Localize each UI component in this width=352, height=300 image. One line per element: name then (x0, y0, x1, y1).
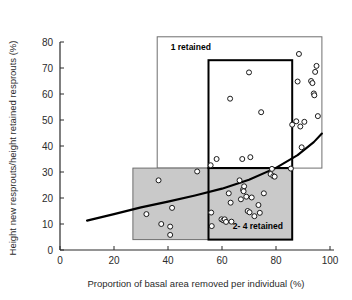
data-point (170, 205, 175, 210)
y-tick-label-10: 10 (42, 219, 54, 230)
data-point (242, 184, 247, 189)
x-tick-label-20: 20 (108, 255, 120, 266)
figure-container: 02040608010001020304050607080 1 retained… (0, 0, 352, 300)
y-tick-label-80: 80 (42, 37, 54, 48)
data-point (237, 178, 242, 183)
data-point (296, 51, 301, 56)
y-tick-label-40: 40 (42, 141, 54, 152)
data-point (288, 166, 293, 171)
data-point (159, 222, 164, 227)
data-point (248, 155, 253, 160)
data-point (272, 174, 277, 179)
region-label-1-retained: 1 retained (171, 42, 211, 52)
data-point (295, 79, 300, 84)
x-tick-label-40: 40 (162, 255, 174, 266)
data-point (168, 224, 173, 229)
y-tick-label-20: 20 (42, 193, 54, 204)
y-axis-title: Height new resprouts/height retained res… (7, 41, 18, 256)
data-point (168, 232, 173, 237)
data-point (294, 119, 299, 124)
data-point (310, 81, 315, 86)
data-point (315, 114, 320, 119)
data-point (252, 214, 257, 219)
data-point (269, 166, 274, 171)
y-tick-label-60: 60 (42, 89, 54, 100)
data-point (257, 210, 262, 215)
data-point (249, 195, 254, 200)
data-point (226, 191, 231, 196)
data-point (195, 169, 200, 174)
data-point (156, 178, 161, 183)
data-point (238, 197, 243, 202)
data-point (241, 189, 246, 194)
data-point (313, 69, 318, 74)
data-point (244, 194, 249, 199)
data-point (298, 124, 303, 129)
data-point (247, 210, 252, 215)
y-tick-label-50: 50 (42, 115, 54, 126)
data-point (224, 219, 229, 224)
y-tick-label-0: 0 (47, 245, 53, 256)
data-point (314, 63, 319, 68)
data-point (209, 224, 214, 229)
data-point (144, 212, 149, 217)
x-tick-label-100: 100 (322, 255, 339, 266)
data-point (209, 210, 214, 215)
data-point (261, 191, 266, 196)
data-point (214, 157, 219, 162)
x-axis-title: Proportion of basal area removed per ind… (87, 278, 304, 289)
data-point (247, 70, 252, 75)
data-point (228, 96, 233, 101)
scatter-plot: 02040608010001020304050607080 1 retained… (0, 0, 352, 300)
data-point (228, 200, 233, 205)
data-point (302, 119, 307, 124)
y-tick-label-70: 70 (42, 63, 54, 74)
x-tick-label-0: 0 (57, 255, 63, 266)
data-point (240, 157, 245, 162)
data-point (299, 145, 304, 150)
data-point (259, 110, 264, 115)
x-tick-label-60: 60 (216, 255, 228, 266)
data-point (312, 93, 317, 98)
region-label-2-4-retained: 2- 4 retained (233, 221, 283, 231)
y-tick-label-30: 30 (42, 167, 54, 178)
data-point (256, 203, 261, 208)
data-point (208, 163, 213, 168)
x-tick-label-80: 80 (270, 255, 282, 266)
